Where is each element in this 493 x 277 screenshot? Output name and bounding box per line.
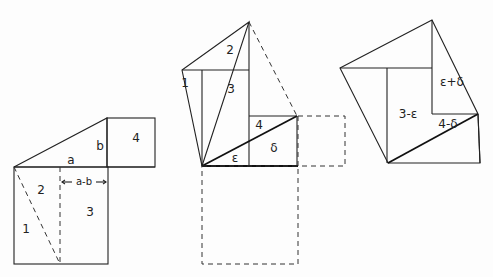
label-delta: δ (270, 142, 277, 154)
pythagorean-dissection-diagram: a b 4 2 1 3 a-b 2 1 3 4 ε δ 3-ε ε+δ 4-δ (0, 0, 493, 277)
figure-2 (182, 22, 345, 264)
label-2: 2 (226, 44, 234, 56)
label-2: 2 (37, 184, 45, 196)
label-a-minus-b: a-b (76, 177, 92, 187)
label-1: 1 (22, 223, 30, 235)
label-1: 1 (181, 77, 189, 89)
label-4: 4 (132, 132, 140, 144)
label-a: a (67, 154, 74, 166)
figure-3 (340, 20, 480, 163)
label-3-minus-epsilon: 3-ε (399, 108, 417, 120)
label-3: 3 (227, 83, 235, 95)
label-4: 4 (255, 119, 263, 131)
label-b: b (96, 140, 104, 152)
label-epsilon: ε (232, 152, 239, 164)
label-4-minus-delta: 4-δ (438, 118, 457, 130)
label-epsilon-plus-delta: ε+δ (440, 76, 464, 88)
label-3: 3 (86, 206, 94, 218)
diagram-canvas (0, 0, 493, 277)
